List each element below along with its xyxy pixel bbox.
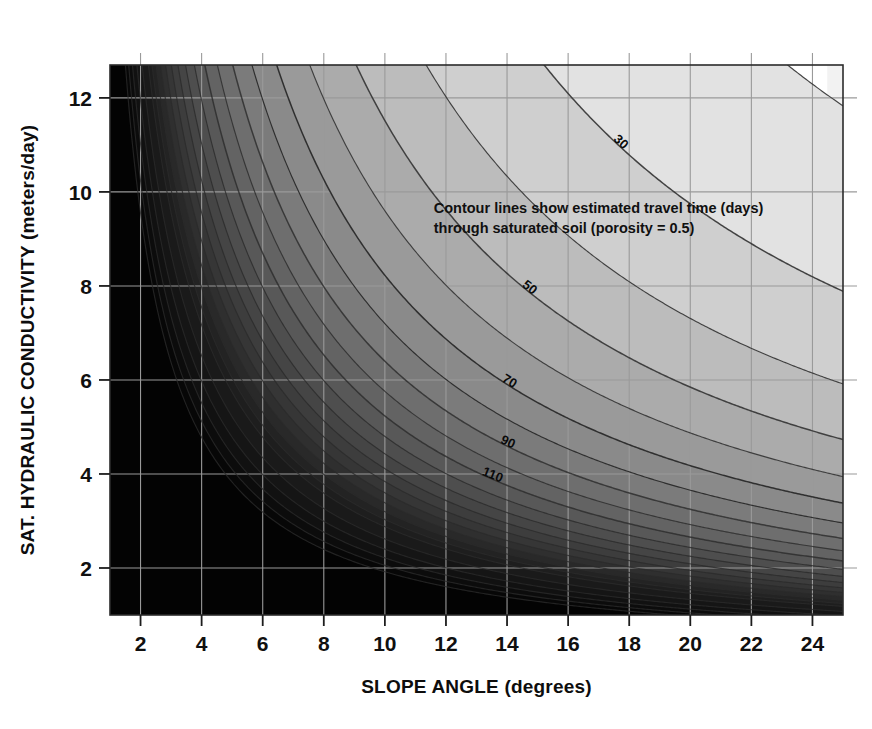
x-tick-label-4: 4 [196,632,208,655]
annotation-line-2: through saturated soil (porosity = 0.5) [434,220,695,236]
y-axis-title: SAT. HYDRAULIC CONDUCTIVITY (meters/day) [17,125,38,556]
x-tick-label-10: 10 [373,632,396,655]
contour-chart-figure: 30507090110 2468101214161820222424681012… [0,0,872,729]
x-tick-label-18: 18 [618,632,642,655]
x-tick-label-8: 8 [318,632,330,655]
y-tick-label-2: 2 [80,557,92,580]
x-tick-label-22: 22 [740,632,763,655]
x-tick-label-2: 2 [135,632,147,655]
x-tick-label-16: 16 [556,632,579,655]
y-tick-label-12: 12 [69,87,92,110]
x-tick-label-12: 12 [434,632,457,655]
x-tick-label-24: 24 [801,632,825,655]
y-tick-label-6: 6 [80,369,92,392]
x-tick-label-20: 20 [679,632,702,655]
y-tick-label-4: 4 [80,463,92,486]
y-tick-label-10: 10 [69,181,92,204]
y-tick-label-8: 8 [80,275,92,298]
x-tick-label-14: 14 [495,632,519,655]
annotation-line-1: Contour lines show estimated travel time… [434,200,764,216]
x-axis-title: SLOPE ANGLE (degrees) [361,676,591,697]
x-tick-label-6: 6 [257,632,269,655]
contour-plot-svg: 30507090110 2468101214161820222424681012… [0,0,872,729]
